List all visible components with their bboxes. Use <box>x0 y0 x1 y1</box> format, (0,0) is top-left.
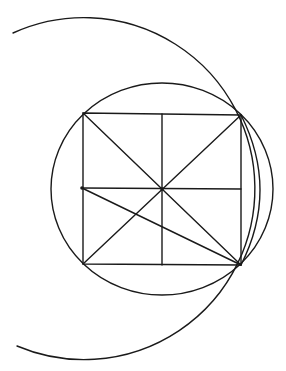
center-point <box>160 187 164 191</box>
left-midpoint-point <box>80 186 84 190</box>
diagram-canvas <box>0 0 286 371</box>
background <box>0 0 286 371</box>
geometric-construction-diagram <box>0 0 286 371</box>
